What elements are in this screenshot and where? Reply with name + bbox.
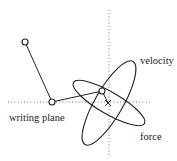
upper-arm-segment <box>25 42 52 102</box>
target-cross-icon <box>105 100 111 106</box>
force-label: force <box>140 131 162 142</box>
arm-ellipse-diagram: velocity force writing plane <box>0 0 177 161</box>
wrist-joint-icon <box>99 88 105 94</box>
elbow-joint-icon <box>49 99 55 105</box>
velocity-label: velocity <box>140 55 175 66</box>
shoulder-joint-icon <box>22 39 28 45</box>
writing-plane-label: writing plane <box>9 112 65 123</box>
